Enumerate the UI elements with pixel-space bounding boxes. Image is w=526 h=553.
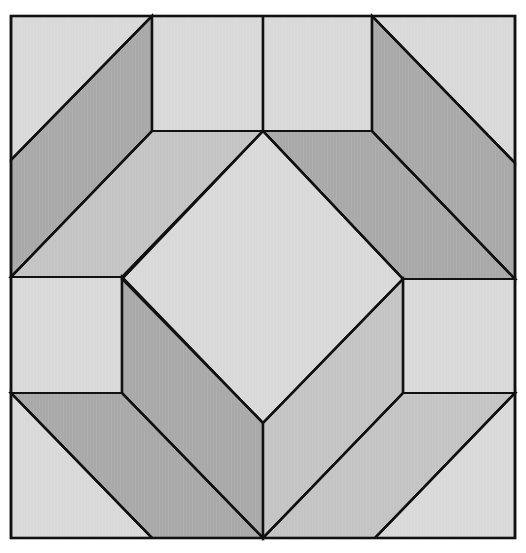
right-middle-square-texture bbox=[403, 279, 515, 393]
top-right-square-texture bbox=[263, 16, 372, 131]
left-middle-square-texture bbox=[11, 277, 122, 393]
top-left-square-texture bbox=[152, 16, 263, 131]
quilt-block bbox=[0, 0, 526, 553]
wood-grain-overlay bbox=[11, 16, 515, 538]
